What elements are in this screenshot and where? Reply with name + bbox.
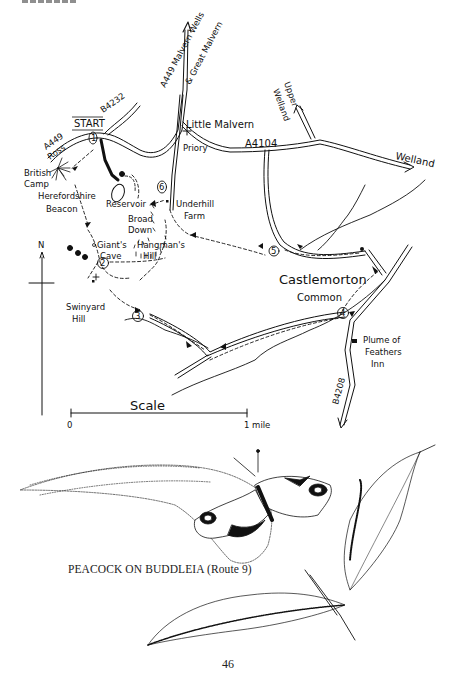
tree-symbols [68, 246, 88, 260]
scale-end: 1 mile [244, 420, 270, 430]
scale-title: Scale [130, 398, 165, 413]
start-label: START [74, 118, 106, 129]
place-british: British [24, 168, 51, 178]
track-to-reservoir [101, 140, 118, 180]
waypoint-6: 6 [159, 182, 164, 192]
road-label-b4208: B4208 [330, 376, 347, 405]
place-beacon: Beacon [46, 204, 78, 214]
page-number: 46 [0, 657, 456, 672]
road-upper-welland [294, 105, 315, 139]
peacock-butterfly [194, 450, 331, 539]
place-common: Common [297, 292, 342, 303]
illustration-caption: PEACOCK ON BUDDLEIA (Route 9) [68, 563, 252, 575]
place-little-malvern: Little Malvern [186, 119, 254, 130]
scale-start: 0 [67, 420, 72, 430]
route-map: START B4232 A449 Malvern Wells & Great M… [0, 0, 456, 680]
place-giants: Giant's [97, 240, 127, 250]
place-down: Down [128, 225, 152, 235]
waypoint-3: 3 [135, 311, 140, 321]
road-label-b4232: B4232 [98, 91, 126, 115]
place-plume-of: Plume of [363, 335, 401, 345]
inn-marker [352, 339, 357, 343]
road-label-a4104: A4104 [245, 138, 277, 149]
place-underhill: Underhill [176, 199, 214, 209]
north-label: N [38, 240, 44, 250]
north-arrow [29, 252, 54, 415]
place-swinyard: Swinyard [66, 302, 105, 312]
british-camp-icon [50, 158, 70, 180]
place-hangmans: Hangman's [137, 240, 186, 250]
place-hangmans-hill: Hill [143, 251, 156, 261]
road-underhill [170, 95, 183, 210]
place-priory: Priory [183, 143, 208, 153]
waypoint-2: 2 [100, 258, 105, 268]
book-page: START B4232 A449 Malvern Wells & Great M… [0, 0, 456, 680]
place-camp: Camp [24, 179, 49, 189]
waypoint-5: 5 [271, 246, 276, 256]
place-farm: Farm [184, 211, 205, 221]
place-castlemorton: Castlemorton [279, 272, 367, 287]
road-lower [150, 312, 345, 378]
place-inn: Inn [371, 359, 384, 369]
place-broad: Broad [128, 214, 153, 224]
underhill-farm-marker [166, 200, 169, 203]
road-loop [264, 150, 365, 259]
place-reservoir: Reservoir [106, 199, 146, 209]
place-swinyard-hill: Hill [72, 314, 85, 324]
place-herefordshire: Herefordshire [38, 191, 96, 201]
place-feathers: Feathers [365, 347, 402, 357]
buddleia-leaves [148, 445, 435, 645]
waypoint-1: 1 [91, 133, 96, 143]
waypoint-4: 4 [340, 308, 345, 318]
